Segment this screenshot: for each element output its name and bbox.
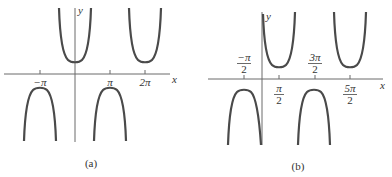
caption-a: (a) xyxy=(85,157,98,170)
panel-b: y x −π 2 π 2 3π 2 5π 2 (b) xyxy=(208,10,385,173)
csc-branch-u-5pi-over-2 xyxy=(334,12,366,67)
figure: y x −π π 2π (a) y x −π 2 π 2 3π xyxy=(0,0,392,177)
x-axis-label: x xyxy=(379,79,385,91)
sec-branch-cap-pi xyxy=(94,88,126,141)
panel-a: y x −π π 2π (a) xyxy=(4,4,177,170)
tick-label-3pi-over-2-den: 2 xyxy=(312,63,318,75)
y-axis-label: y xyxy=(265,10,271,22)
tick-label-neg-pi-over-2-num: −π xyxy=(238,51,251,63)
tick-label-neg-pi: −π xyxy=(34,76,47,88)
sec-branch-u-2pi xyxy=(129,8,161,62)
csc-branch-cap-3pi-over-2 xyxy=(298,90,330,145)
x-axis-label: x xyxy=(171,73,177,85)
tick-label-5pi-over-2-num: 5π xyxy=(344,82,356,94)
tick-label-pi-over-2-num: π xyxy=(276,82,282,94)
caption-b: (b) xyxy=(292,160,305,173)
tick-label-5pi-over-2-den: 2 xyxy=(347,94,353,106)
tick-label-2pi: 2π xyxy=(139,76,151,88)
y-axis-label: y xyxy=(77,4,83,16)
csc-branch-cap-neg-pi-over-2 xyxy=(228,90,261,145)
sec-branch-cap-neg-pi xyxy=(24,88,56,141)
tick-label-pi-over-2-den: 2 xyxy=(276,94,282,106)
tick-label-pi: π xyxy=(107,76,113,88)
tick-label-neg-pi-over-2-den: 2 xyxy=(241,63,247,75)
tick-label-3pi-over-2-num: 3π xyxy=(308,51,321,63)
